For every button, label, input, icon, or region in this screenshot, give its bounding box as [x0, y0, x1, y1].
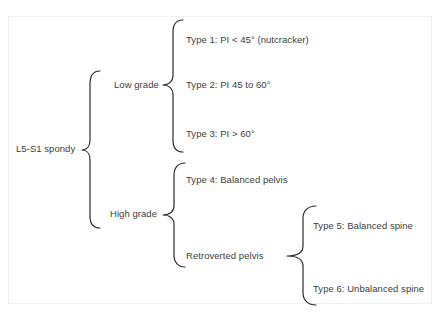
type-1-label: Type 1: PI < 45° (nutcracker): [186, 34, 309, 46]
root-label: L5-S1 spondy: [16, 143, 75, 155]
type-3-label: Type 3: PI > 60°: [186, 128, 255, 140]
high-grade-label: High grade: [110, 208, 157, 220]
type-4-label: Type 4: Balanced pelvis: [186, 174, 288, 186]
braces-layer: [0, 0, 443, 320]
brace-low-grade: [163, 20, 183, 152]
brace-root: [82, 71, 100, 228]
type-2-label: Type 2: PI 45 to 60°: [186, 79, 271, 91]
low-grade-label: Low grade: [114, 79, 159, 91]
type-6-label: Type 6: Unbalanced spine: [313, 283, 424, 295]
brace-high-grade: [163, 163, 185, 267]
retroverted-pelvis-label: Retroverted pelvis: [186, 250, 263, 262]
type-5-label: Type 5: Balanced spine: [313, 220, 413, 232]
brace-retroverted: [287, 206, 316, 305]
